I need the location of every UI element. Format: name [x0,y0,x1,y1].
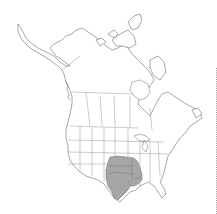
north-america-range-map [0,0,217,214]
